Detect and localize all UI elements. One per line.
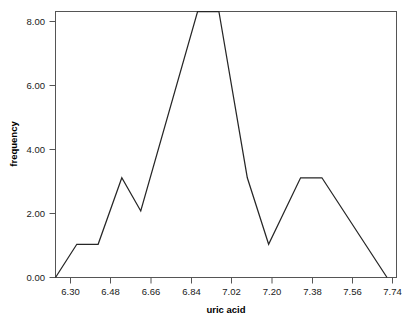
x-axis-tick-labels: 6.30 6.48 6.66 6.84 7.02 7.20 7.38 7.56 … [61, 286, 402, 297]
x-tick-label: 6.30 [61, 286, 80, 297]
x-axis-title: uric acid [206, 304, 245, 315]
x-tick-label: 7.74 [383, 286, 402, 297]
x-tick-label: 7.38 [303, 286, 322, 297]
chart-background [0, 0, 420, 323]
y-tick-label: 2.00 [27, 208, 46, 219]
x-tick-label: 7.56 [343, 286, 362, 297]
x-tick-label: 6.84 [182, 286, 201, 297]
x-tick-label: 7.02 [222, 286, 241, 297]
x-tick-label: 6.48 [101, 286, 120, 297]
y-tick-label: 6.00 [27, 80, 46, 91]
x-tick-label: 7.20 [263, 286, 282, 297]
y-tick-label: 0.00 [27, 272, 46, 283]
y-axis-title: frequency [8, 121, 19, 167]
x-tick-label: 6.66 [142, 286, 161, 297]
y-tick-label: 4.00 [27, 144, 46, 155]
frequency-polygon-chart: 6.30 6.48 6.66 6.84 7.02 7.20 7.38 7.56 … [0, 0, 420, 323]
y-tick-label: 8.00 [27, 16, 46, 27]
